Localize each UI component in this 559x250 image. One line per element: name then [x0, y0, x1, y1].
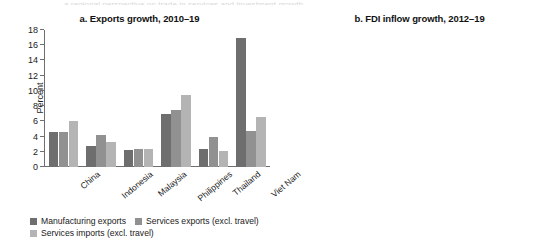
legend-label: Services exports (excl. travel): [146, 216, 259, 226]
category-label: Indonesia: [119, 169, 154, 201]
bar-group: [83, 30, 121, 167]
bar: [256, 117, 266, 167]
bar: [199, 149, 209, 167]
y-tick-mark: [40, 166, 44, 167]
y-tick-label: 8: [33, 101, 38, 111]
legend-swatch-icon: [135, 218, 142, 225]
panel-b-title: b. FDI inflow growth, 2012–19: [280, 13, 559, 24]
panel-a-title: a. Exports growth, 2010–19: [0, 13, 279, 24]
bar: [246, 131, 256, 167]
panel-exports-growth: a. Exports growth, 2010–19 Percent China…: [0, 0, 279, 250]
bar: [181, 95, 191, 167]
bar: [209, 137, 219, 167]
y-tick-mark: [40, 44, 44, 45]
category-label: Malaysia: [156, 169, 188, 198]
y-tick-mark: [40, 136, 44, 137]
y-tick-mark: [40, 120, 44, 121]
legend-item: Services exports (excl. travel): [135, 216, 259, 226]
bar: [49, 132, 59, 167]
bar: [59, 132, 69, 167]
bar: [124, 150, 134, 167]
y-tick-label: 0: [33, 162, 38, 172]
panel-a-category-labels: ChinaIndonesiaMalaysiaPhilippinesThailan…: [44, 167, 270, 207]
bar: [236, 38, 246, 167]
y-tick-mark: [40, 105, 44, 106]
y-tick-mark: [40, 75, 44, 76]
bar-group: [120, 30, 158, 167]
panel-a-bars: [45, 30, 270, 167]
bar: [106, 142, 116, 167]
legend-label: Manufacturing exports: [41, 216, 126, 226]
legend-label: Services imports (excl. travel): [41, 228, 154, 238]
panel-a-legend: Manufacturing exportsServices exports (e…: [30, 216, 280, 240]
y-tick-label: 10: [28, 86, 38, 96]
y-tick-mark: [40, 29, 44, 30]
bar-group: [195, 30, 233, 167]
legend-item: Manufacturing exports: [30, 216, 126, 226]
legend-swatch-icon: [30, 218, 37, 225]
panel-fdi-inflow-growth: b. FDI inflow growth, 2012–19 Percent Ch…: [280, 0, 559, 250]
y-tick-mark: [40, 59, 44, 60]
y-tick-label: 4: [33, 132, 38, 142]
bar: [96, 135, 106, 167]
y-tick-mark: [40, 151, 44, 152]
y-tick-label: 16: [28, 40, 38, 50]
bar-group: [45, 30, 83, 167]
bar: [161, 114, 171, 167]
bar: [219, 151, 229, 167]
bar: [171, 110, 181, 167]
bar: [69, 121, 79, 167]
category-label: China: [79, 169, 103, 191]
bar: [134, 149, 144, 167]
bar: [144, 149, 154, 167]
y-tick-label: 14: [28, 55, 38, 65]
legend-swatch-icon: [30, 230, 37, 237]
category-label: Thailand: [231, 169, 263, 198]
chart-figure: a regional perspective on trade in servi…: [0, 0, 559, 250]
legend-item: Services imports (excl. travel): [30, 228, 154, 238]
y-tick-label: 12: [28, 71, 38, 81]
bar-group: [233, 30, 271, 167]
panel-a-plot-area: Percent ChinaIndonesiaMalaysiaPhilippine…: [44, 30, 270, 167]
y-tick-label: 6: [33, 116, 38, 126]
y-tick-label: 18: [28, 25, 38, 35]
category-label: Philippines: [195, 169, 233, 203]
bar-group: [158, 30, 196, 167]
y-tick-label: 2: [33, 147, 38, 157]
bar: [86, 146, 96, 167]
y-tick-mark: [40, 90, 44, 91]
